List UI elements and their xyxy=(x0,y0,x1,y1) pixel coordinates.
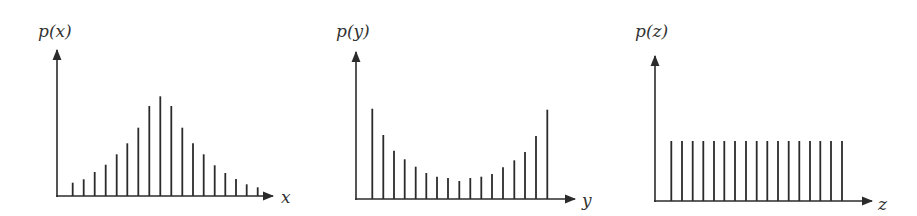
stems xyxy=(671,141,842,201)
stems xyxy=(73,96,258,196)
distribution-charts: p(x) x p(y) y p(z) z xyxy=(0,0,917,216)
x-axis-label: y xyxy=(581,190,592,210)
chart-py: p(y) y xyxy=(336,21,592,210)
chart-px: p(x) x xyxy=(38,21,291,207)
x-axis-label: x xyxy=(281,187,291,207)
figure: p(x) x p(y) y p(z) z xyxy=(0,0,917,216)
x-axis-label: z xyxy=(877,194,888,214)
y-axis-label: p(y) xyxy=(336,21,370,41)
stems xyxy=(372,109,547,199)
y-axis-label: p(x) xyxy=(38,21,72,41)
chart-pz: p(z) z xyxy=(635,21,888,214)
y-axis-label: p(z) xyxy=(635,21,668,41)
